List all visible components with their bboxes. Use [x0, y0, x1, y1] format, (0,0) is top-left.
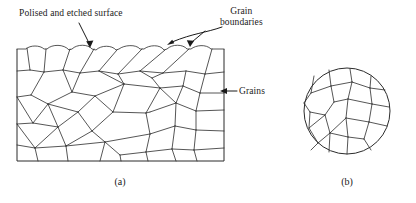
- grain-edge: [146, 149, 172, 152]
- grain-edge: [372, 104, 389, 107]
- grain-edge: [330, 133, 348, 137]
- grain-edge: [311, 86, 331, 93]
- grain-edge: [331, 82, 352, 86]
- polished-surface-arrowhead: [86, 41, 93, 48]
- grain-edge: [325, 115, 330, 133]
- grain-edge: [370, 76, 371, 88]
- grain-edge: [194, 130, 196, 150]
- grain-edge: [175, 103, 176, 126]
- grain-edge: [329, 133, 330, 152]
- grain-edge: [99, 50, 117, 71]
- panel-a-group: [17, 45, 224, 161]
- grain-edge: [63, 70, 72, 92]
- grain-edge: [369, 122, 387, 126]
- grain-edge: [325, 102, 334, 115]
- grain-edge: [105, 134, 150, 142]
- grain-edge: [152, 73, 163, 78]
- grain-edge: [31, 72, 44, 95]
- grain-edge: [17, 123, 33, 124]
- grain-edge: [17, 97, 33, 123]
- grain-edge: [309, 112, 310, 128]
- grain-edge: [175, 126, 196, 130]
- grain-edge: [120, 152, 146, 155]
- grain-edge: [200, 74, 205, 93]
- grain-edge: [146, 134, 150, 152]
- grain-edge: [92, 131, 105, 142]
- grain-edge: [63, 70, 80, 73]
- grain-edge: [346, 99, 348, 118]
- grain-edge: [163, 49, 189, 73]
- grain-edge: [196, 130, 224, 131]
- grain-edge: [80, 49, 94, 73]
- grain-edge: [347, 137, 348, 154]
- grain-edge: [310, 112, 325, 115]
- grain-edge: [33, 123, 58, 127]
- grain-edge: [160, 86, 183, 88]
- grain-boundaries-arrowhead-left: [167, 40, 174, 45]
- grain-edge: [172, 149, 194, 150]
- grain-edge: [146, 113, 150, 134]
- polished-surface-leader: [79, 23, 89, 43]
- grain-edge: [48, 104, 78, 112]
- grain-edge: [331, 86, 334, 102]
- grain-edge: [33, 104, 48, 123]
- grain-edge: [58, 127, 66, 146]
- grain-edge: [80, 71, 99, 73]
- label-grain-boundaries-line1: Grain: [220, 6, 263, 17]
- grain-edge: [309, 115, 325, 128]
- annotation-leaders: [79, 23, 237, 94]
- grain-edge: [120, 155, 121, 161]
- grain-edge: [146, 152, 148, 161]
- grain-edge: [17, 70, 30, 71]
- grain-edge: [44, 49, 46, 72]
- grain-edge: [176, 86, 183, 103]
- grain-edge: [35, 148, 38, 161]
- grain-edge: [95, 96, 113, 112]
- grain-edge: [124, 84, 160, 88]
- grain-edge: [329, 70, 331, 86]
- grain-edge: [196, 110, 224, 111]
- grain-edge: [78, 96, 95, 112]
- grain-edge: [172, 126, 175, 149]
- grain-edge: [160, 88, 176, 103]
- grain-edge: [183, 86, 200, 93]
- panel-b-group: [304, 68, 390, 154]
- grain-edge: [35, 127, 58, 148]
- grain-edge: [140, 50, 165, 71]
- grain-edge: [304, 103, 310, 112]
- grain-edge: [92, 112, 113, 131]
- grain-edge: [44, 70, 63, 72]
- grain-edge: [17, 124, 35, 148]
- grain-edge: [194, 150, 197, 161]
- grain-edge: [118, 71, 140, 74]
- grain-edge: [364, 122, 369, 139]
- grain-edge: [118, 49, 142, 74]
- grain-edge: [196, 93, 200, 111]
- grain-edge: [348, 82, 352, 99]
- grain-edge: [346, 118, 348, 137]
- grain-edge: [334, 99, 348, 102]
- grain-edge: [163, 71, 186, 73]
- grain-edge: [72, 92, 95, 96]
- grain-edge: [17, 95, 31, 97]
- caption-panel-b: (b): [327, 176, 367, 187]
- grain-edge: [113, 112, 146, 113]
- grain-edge: [348, 99, 372, 104]
- grain-edge: [330, 118, 346, 133]
- grain-edge: [309, 128, 318, 143]
- etched-top-surface: [17, 45, 224, 50]
- grain-boundaries-leader-branch: [192, 31, 205, 42]
- label-grain-boundaries-line2: boundaries: [220, 17, 263, 28]
- grain-edge: [186, 71, 205, 74]
- grain-edge: [100, 142, 105, 161]
- figure-canvas: Polised and etched surface Grain boundar…: [0, 0, 416, 203]
- caption-panel-a: (a): [100, 176, 140, 187]
- grain-edge: [35, 146, 66, 148]
- label-grains: Grains: [239, 86, 265, 97]
- grain-boundaries-arrowhead-right: [187, 40, 194, 47]
- grain-edge: [58, 112, 78, 127]
- grain-edge: [30, 70, 44, 72]
- grain-edge: [318, 133, 330, 143]
- grain-edge: [48, 92, 72, 104]
- label-grain-boundaries: Grain boundaries: [220, 6, 263, 28]
